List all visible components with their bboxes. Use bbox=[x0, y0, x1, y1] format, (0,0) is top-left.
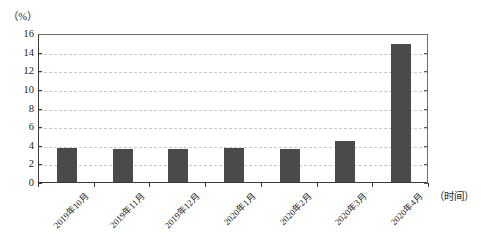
bar bbox=[168, 149, 188, 182]
y-axis-tick-label: 10 bbox=[4, 85, 34, 96]
bar-chart: （%） 1614121086420 2019年10月2019年11月2019年1… bbox=[0, 0, 481, 248]
y-axis-tick-label: 6 bbox=[4, 122, 34, 133]
y-axis-tick-mark-right bbox=[424, 146, 428, 147]
x-axis-tick-mark bbox=[317, 183, 318, 187]
y-axis-tick-label: 14 bbox=[4, 48, 34, 59]
y-axis-tick-mark bbox=[38, 127, 42, 128]
bar bbox=[335, 141, 355, 182]
bar bbox=[57, 148, 77, 182]
y-axis-tick-mark-right bbox=[424, 164, 428, 165]
gridline bbox=[39, 54, 427, 55]
y-axis-unit-label: （%） bbox=[8, 8, 38, 23]
y-axis-tick-mark bbox=[38, 71, 42, 72]
x-axis-tick-label: 2019年12月 bbox=[161, 190, 202, 231]
x-axis-tick-label: 2020年2月 bbox=[276, 190, 314, 228]
plot-area bbox=[38, 34, 428, 183]
x-axis-unit-label: （时间） bbox=[434, 188, 474, 203]
x-axis-tick-label: 2020年1月 bbox=[220, 190, 258, 228]
x-axis-tick-label: 2019年10月 bbox=[50, 190, 91, 231]
x-axis-tick-mark bbox=[205, 183, 206, 187]
y-axis-tick-mark-right bbox=[424, 90, 428, 91]
y-axis-tick-label: 16 bbox=[4, 29, 34, 40]
y-axis-tick-mark-right bbox=[424, 127, 428, 128]
x-axis-tick-label: 2020年4月 bbox=[388, 190, 426, 228]
y-axis-tick-mark bbox=[38, 90, 42, 91]
bar bbox=[391, 44, 411, 182]
x-axis-tick-mark bbox=[261, 183, 262, 187]
y-axis-tick-label: 4 bbox=[4, 141, 34, 152]
y-axis-tick-mark bbox=[38, 53, 42, 54]
y-axis-tick-label-group: 1614121086420 bbox=[0, 34, 34, 183]
y-axis-tick-label: 8 bbox=[4, 104, 34, 115]
gridline bbox=[39, 91, 427, 92]
x-axis-tick-mark bbox=[38, 183, 39, 187]
x-axis-tick-label: 2020年3月 bbox=[332, 190, 370, 228]
bar bbox=[280, 149, 300, 182]
y-axis-tick-mark-right bbox=[424, 71, 428, 72]
x-axis-tick-mark bbox=[149, 183, 150, 187]
gridline bbox=[39, 110, 427, 111]
y-axis-tick-mark-right bbox=[424, 53, 428, 54]
bar bbox=[113, 149, 133, 182]
y-axis-tick-label: 12 bbox=[4, 66, 34, 77]
x-axis-tick-mark bbox=[372, 183, 373, 187]
x-axis-tick-mark bbox=[94, 183, 95, 187]
bar bbox=[224, 148, 244, 182]
y-axis-tick-mark bbox=[38, 109, 42, 110]
x-axis-tick-label: 2019年11月 bbox=[106, 190, 147, 231]
gridline bbox=[39, 128, 427, 129]
y-axis-tick-label: 0 bbox=[4, 178, 34, 189]
y-axis-tick-mark-right bbox=[424, 109, 428, 110]
y-axis-tick-mark bbox=[38, 146, 42, 147]
x-axis-tick-mark bbox=[428, 183, 429, 187]
y-axis-tick-mark bbox=[38, 164, 42, 165]
y-axis-tick-label: 2 bbox=[4, 159, 34, 170]
gridline bbox=[39, 72, 427, 73]
